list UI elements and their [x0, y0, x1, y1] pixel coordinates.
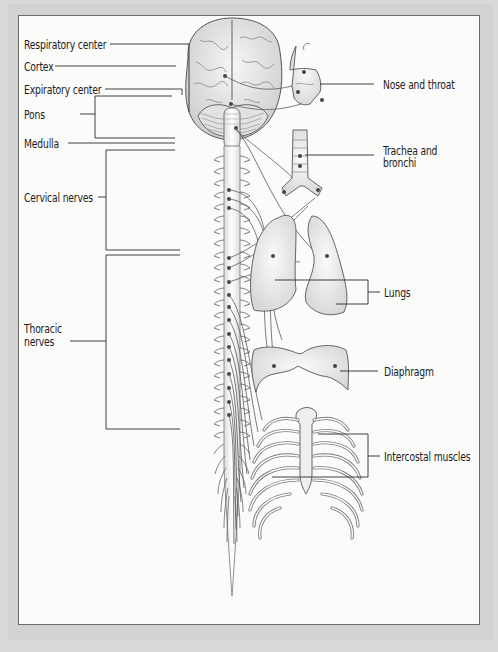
respiratory-nervous-system-diagram — [0, 0, 498, 652]
label-intercostal-muscles: Intercostal muscles — [384, 450, 470, 463]
label-respiratory-center: Respiratory center — [24, 38, 106, 51]
diaphragm-illustration — [252, 346, 349, 392]
label-lungs: Lungs — [384, 286, 410, 299]
label-cervical-nerves: Cervical nerves — [24, 191, 93, 204]
label-thoracic-nerves-line2: nerves — [24, 335, 54, 348]
ribcage-illustration — [250, 408, 362, 539]
label-cortex: Cortex — [24, 60, 53, 73]
label-diaphragm: Diaphragm — [384, 365, 434, 378]
spinal-cord-illustration — [214, 146, 250, 596]
trachea-bronchi-illustration — [282, 130, 322, 196]
label-pons: Pons — [24, 108, 45, 121]
label-medulla: Medulla — [24, 137, 59, 150]
brain-illustration — [186, 18, 282, 148]
label-nose-and-throat: Nose and throat — [383, 78, 455, 91]
nose-throat-illustration — [290, 43, 324, 104]
lungs-illustration — [251, 215, 347, 314]
label-expiratory-center: Expiratory center — [24, 83, 101, 96]
label-trachea-line2: bronchi — [383, 156, 416, 169]
